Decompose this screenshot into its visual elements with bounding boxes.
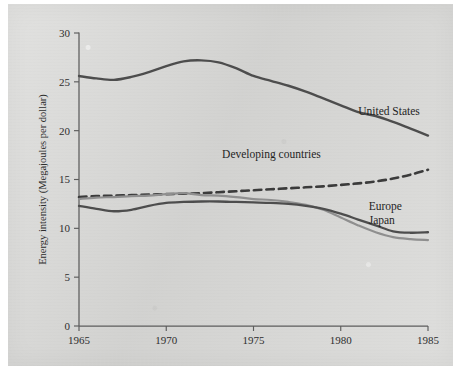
x-axis-tick-label: 1970 [155, 334, 178, 346]
x-axis-tick-label: 1980 [330, 334, 353, 346]
x-axis: 19651970197519801985 [68, 326, 440, 346]
y-axis-tick-label: 0 [65, 320, 71, 332]
x-axis-tick-label: 1985 [417, 334, 440, 346]
y-axis-tick-label: 30 [59, 27, 71, 39]
y-axis-tick-label: 25 [59, 76, 71, 88]
y-axis-tick-label: 20 [59, 125, 71, 137]
series-line-0 [79, 60, 428, 135]
y-axis: 051015202530 [59, 27, 79, 332]
series-label-2: Japan [369, 214, 395, 227]
y-axis-tick-label: 5 [65, 271, 71, 283]
chart-figure: 051015202530 19651970197519801985 United… [0, 0, 461, 378]
series-label-0: United States [358, 105, 420, 117]
x-axis-tick-label: 1975 [243, 334, 266, 346]
series-line-1 [79, 170, 428, 197]
chart-canvas: 051015202530 19651970197519801985 United… [0, 0, 461, 378]
y-axis-tick-label: 15 [59, 173, 71, 185]
y-axis-tick-label: 10 [59, 222, 71, 234]
series-label-1: Developing countries [222, 148, 321, 161]
x-axis-tick-label: 1965 [68, 334, 91, 346]
y-axis-title: Energy intensity (Megajoules per dollar) [37, 94, 49, 265]
series-label-3: Europe [369, 200, 402, 213]
axis-titles: Energy intensity (Megajoules per dollar) [37, 94, 49, 265]
